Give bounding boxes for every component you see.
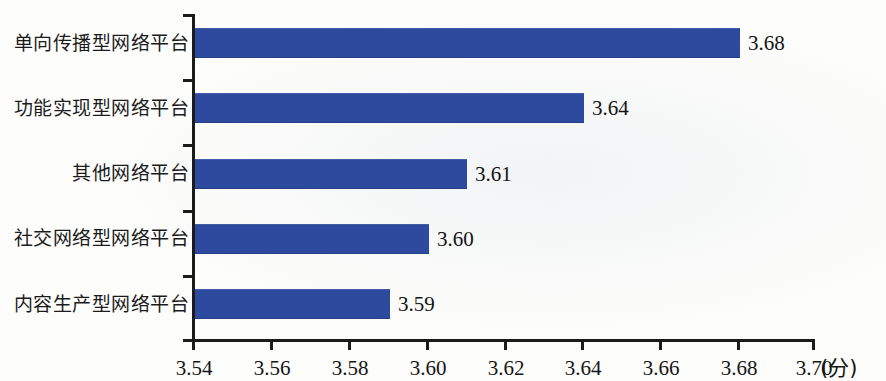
category-label-0: 单向传播型网络平台 xyxy=(1,33,192,53)
y-axis-tick xyxy=(183,14,193,17)
bar-value-label-3: 3.60 xyxy=(437,228,474,250)
bar-2 xyxy=(195,159,467,189)
bar-1 xyxy=(195,93,584,123)
category-label-1: 功能实现型网络平台 xyxy=(1,98,192,118)
plot-area: 3.68 3.64 3.61 3.60 3.59 3.54 3.56 3.58 … xyxy=(192,14,815,342)
y-axis-tick xyxy=(183,144,193,147)
x-axis-tick xyxy=(581,339,584,350)
x-axis-tick xyxy=(192,339,195,350)
x-axis-tick-label-0: 3.54 xyxy=(154,355,234,381)
x-axis-tick-label-7: 3.68 xyxy=(699,355,779,381)
y-axis-tick xyxy=(183,210,193,213)
x-axis-tick-label-1: 3.56 xyxy=(232,355,312,381)
x-axis-tick-label-3: 3.60 xyxy=(388,355,468,381)
bar-value-label-0: 3.68 xyxy=(748,32,785,54)
x-axis-unit-label: (分) xyxy=(820,355,857,381)
x-axis-tick xyxy=(812,339,815,350)
x-axis-tick-label-2: 3.58 xyxy=(310,355,390,381)
y-axis-tick xyxy=(183,275,193,278)
x-axis-tick-label-6: 3.66 xyxy=(621,355,701,381)
x-axis-tick xyxy=(348,339,351,350)
bar-value-label-2: 3.61 xyxy=(475,163,512,185)
x-axis-tick xyxy=(426,339,429,350)
x-axis-tick-label-5: 3.64 xyxy=(543,355,623,381)
x-axis-tick-label-4: 3.62 xyxy=(466,355,546,381)
x-axis-tick xyxy=(737,339,740,350)
y-axis-tick xyxy=(183,79,193,82)
x-axis-tick xyxy=(504,339,507,350)
x-axis-tick xyxy=(659,339,662,350)
category-label-3: 社交网络型网络平台 xyxy=(1,228,192,248)
bar-4 xyxy=(195,289,390,319)
bar-3 xyxy=(195,224,429,254)
bar-value-label-4: 3.59 xyxy=(398,293,435,315)
category-label-4: 内容生产型网络平台 xyxy=(1,294,192,314)
bar-0 xyxy=(195,28,740,58)
x-axis-tick xyxy=(270,339,273,350)
category-label-2: 其他网络平台 xyxy=(1,163,192,183)
bar-value-label-1: 3.64 xyxy=(592,97,629,119)
